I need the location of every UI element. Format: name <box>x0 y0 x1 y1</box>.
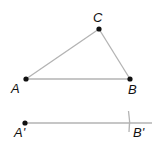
label-b-prime: B' <box>133 125 145 140</box>
geometry-diagram: A B C A' B' <box>0 0 161 154</box>
label-c: C <box>93 10 103 25</box>
compass-arc-mark <box>129 111 130 132</box>
label-b: B <box>128 82 137 97</box>
label-a: A <box>10 81 20 96</box>
point-a <box>23 76 28 81</box>
point-c <box>96 26 101 31</box>
label-a-prime: A' <box>13 125 26 140</box>
point-b <box>127 76 132 81</box>
segment-ca <box>26 29 99 79</box>
segment-bc <box>99 29 130 79</box>
